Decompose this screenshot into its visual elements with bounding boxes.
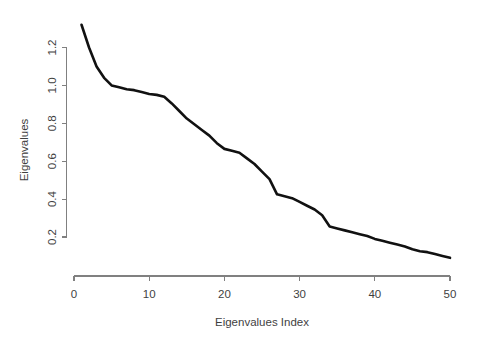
x-tick-label: 20 [218, 288, 231, 300]
x-axis-ticks [74, 276, 450, 281]
x-tick-label: 40 [368, 288, 381, 300]
x-axis: 01020304050 [71, 276, 457, 300]
eigenvalues-line-series [82, 25, 450, 258]
y-axis-ticks [62, 48, 67, 238]
x-axis-title: Eigenvalues Index [215, 316, 309, 328]
y-axis-tick-labels: 0.20.40.60.81.01.2 [46, 40, 58, 246]
y-tick-label: 0.6 [46, 153, 58, 169]
x-tick-label: 10 [143, 288, 156, 300]
y-axis-title: Eigenvalues [18, 118, 30, 181]
x-axis-tick-labels: 01020304050 [71, 288, 457, 300]
scree-plot-svg: 0.20.40.60.81.01.2 01020304050 Eigenvalu… [0, 0, 478, 343]
y-tick-label: 1.0 [46, 77, 58, 93]
y-tick-label: 0.2 [46, 229, 58, 245]
y-tick-label: 0.4 [46, 191, 58, 208]
y-tick-label: 1.2 [46, 40, 58, 56]
x-tick-label: 50 [444, 288, 457, 300]
scree-plot-figure: 0.20.40.60.81.01.2 01020304050 Eigenvalu… [0, 0, 478, 343]
x-tick-label: 30 [293, 288, 306, 300]
y-tick-label: 0.8 [46, 115, 58, 131]
x-tick-label: 0 [71, 288, 77, 300]
y-axis: 0.20.40.60.81.01.2 [46, 40, 67, 246]
